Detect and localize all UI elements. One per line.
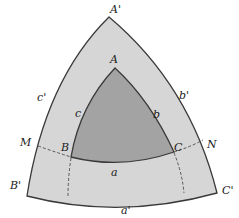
label-a-prime-vertex: A' bbox=[109, 3, 121, 16]
label-c-vertex: C bbox=[174, 141, 183, 154]
label-m-point: M bbox=[19, 136, 32, 149]
label-c-prime-side: c' bbox=[37, 91, 46, 104]
label-c-prime-vertex: C' bbox=[222, 184, 233, 197]
label-a-prime-side: a' bbox=[121, 204, 131, 217]
label-b-prime-vertex: B' bbox=[9, 179, 21, 192]
label-c-side: c bbox=[75, 107, 81, 120]
label-n-point: N bbox=[206, 138, 217, 151]
label-b-side: b bbox=[153, 108, 160, 121]
label-a-side: a bbox=[111, 166, 118, 179]
label-b-prime-side: b' bbox=[179, 89, 189, 102]
label-a-vertex: A bbox=[109, 53, 118, 66]
polar-triangle-diagram: A' A c' b' c b M N B C a B' C' a' bbox=[0, 0, 239, 218]
label-b-vertex: B bbox=[60, 141, 69, 154]
